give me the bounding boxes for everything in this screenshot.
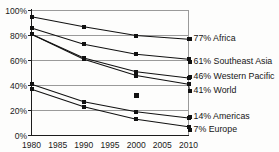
series-label-americas: 14% Americas (194, 111, 251, 121)
data-point (134, 117, 138, 121)
x-tick-label-1995: 1995 (101, 140, 120, 150)
series-western-pacific (30, 32, 191, 80)
label-anchor-marker (188, 60, 192, 64)
label-anchor-marker (188, 75, 192, 79)
x-tick-label-1980: 1980 (22, 140, 41, 150)
label-anchor-marker (188, 128, 192, 132)
data-point (134, 110, 138, 114)
data-point (30, 87, 34, 91)
series-label-world: 41% World (194, 85, 237, 95)
series-label-layer: 77% Africa61% Southeast Asia46% Western … (194, 33, 276, 134)
y-tick-label-0: 0% (15, 131, 28, 141)
label-anchor-marker (188, 115, 192, 119)
series-africa (30, 15, 191, 42)
data-point (82, 100, 86, 104)
data-point (82, 57, 86, 61)
chart-container: 0% 20% 40% 60% 80% 100% 1980 1985 1990 1… (0, 0, 279, 152)
data-point (82, 42, 86, 46)
x-tick-label-2000: 2000 (127, 140, 146, 150)
y-tick-label-40: 40% (10, 81, 27, 91)
y-tick-label-80: 80% (10, 31, 27, 41)
series-label-southeast-asia: 61% Southeast Asia (194, 56, 273, 66)
y-tick-label-20: 20% (10, 106, 27, 116)
series-europe (30, 87, 191, 129)
y-axis: 0% 20% 40% 60% 80% 100% (5, 6, 31, 141)
label-anchor-marker (188, 37, 192, 41)
stray-data-point (134, 93, 139, 98)
x-tick-label-1985: 1985 (48, 140, 67, 150)
gridlines (32, 11, 189, 111)
data-point (30, 32, 34, 36)
x-tick-label-1990: 1990 (74, 140, 93, 150)
series-line (32, 28, 189, 59)
data-point (30, 26, 34, 30)
data-point (30, 82, 34, 86)
data-point (134, 52, 138, 56)
series-americas (30, 82, 191, 120)
data-point (134, 74, 138, 78)
data-point (82, 105, 86, 109)
data-point (134, 70, 138, 74)
data-point (30, 15, 34, 19)
series-layer (30, 15, 191, 129)
y-tick-label-60: 60% (10, 56, 27, 66)
x-tick-label-2005: 2005 (153, 140, 172, 150)
line-chart: 0% 20% 40% 60% 80% 100% 1980 1985 1990 1… (0, 0, 279, 152)
series-line (32, 89, 189, 127)
data-point (134, 34, 138, 38)
label-anchor-marker (188, 89, 192, 93)
y-tick-label-100: 100% (5, 6, 27, 16)
series-label-western-pacific: 46% Western Pacific (194, 71, 276, 81)
series-line (32, 34, 189, 84)
x-axis: 1980 1985 1990 1995 2000 2005 2010 (22, 136, 198, 151)
x-tick-label-2010: 2010 (179, 140, 198, 150)
series-world (30, 32, 191, 86)
series-label-europe: 7% Europe (194, 124, 238, 134)
data-point (82, 25, 86, 29)
series-label-africa: 77% Africa (194, 33, 236, 43)
series-line (32, 34, 189, 78)
